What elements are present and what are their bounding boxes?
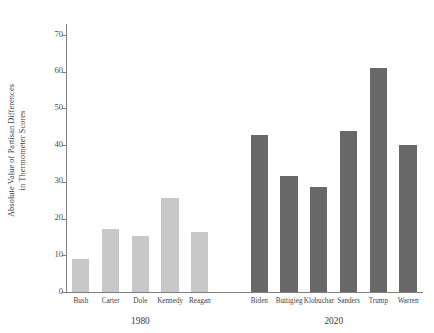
bar-chart-figure: Absolute Value of Partisan Differences i… <box>0 0 434 333</box>
bar-category-label: Buttigieg <box>273 297 306 305</box>
y-tick-label: 40 <box>54 139 63 149</box>
bar <box>340 131 357 292</box>
bar-category-label: Sanders <box>332 297 365 305</box>
bar-category-label: Warren <box>392 297 425 305</box>
bar <box>132 236 149 292</box>
bar-category-label: Bush <box>65 297 98 305</box>
y-axis-spine <box>66 24 67 292</box>
bar <box>399 145 416 292</box>
bar <box>310 187 327 292</box>
y-tick-label: 10 <box>54 249 63 259</box>
bar <box>161 198 178 292</box>
group-label-1980: 1980 <box>100 316 180 326</box>
y-axis-title-text: Absolute Value of Partisan Differences i… <box>7 84 28 217</box>
bar <box>72 259 89 292</box>
y-tick-label: 50 <box>54 102 63 112</box>
bar <box>251 135 268 292</box>
y-tick-label: 20 <box>54 212 63 222</box>
plot-area: 010203040506070 BushCarterDoleKennedyRea… <box>66 24 423 292</box>
y-tick-label: 70 <box>54 29 63 39</box>
bar <box>370 68 387 292</box>
x-axis-spine <box>66 292 423 293</box>
bar <box>191 232 208 292</box>
bar-category-label: Reagan <box>184 297 217 305</box>
bar-category-label: Dole <box>124 297 157 305</box>
y-axis-title: Absolute Value of Partisan Differences i… <box>0 0 34 300</box>
y-axis-title-line1: Absolute Value of Partisan Differences <box>7 84 16 217</box>
y-tick-label: 0 <box>59 286 63 296</box>
bar-category-label: Kennedy <box>154 297 187 305</box>
bar-category-label: Trump <box>362 297 395 305</box>
bar-category-label: Klobuchar <box>303 297 336 305</box>
y-axis-title-line2: in Thermometer Scores <box>17 84 28 217</box>
bar-category-label: Biden <box>243 297 276 305</box>
bar <box>102 229 119 292</box>
y-tick-label: 60 <box>54 65 63 75</box>
bar-category-label: Carter <box>94 297 127 305</box>
bar <box>280 176 297 292</box>
y-tick-label: 30 <box>54 175 63 185</box>
group-label-2020: 2020 <box>294 316 374 326</box>
